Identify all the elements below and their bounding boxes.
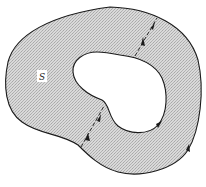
region-s-shaded [6, 7, 202, 174]
region-label-s: S [39, 72, 45, 82]
multiply-connected-region-diagram: S [0, 0, 206, 187]
